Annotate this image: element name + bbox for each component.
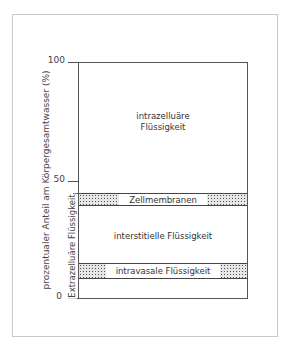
intracellular-label-line2: Flüssigkeit: [79, 122, 247, 133]
tick-100: [68, 62, 78, 63]
intracellular-label-line1: intrazelluäre: [79, 111, 247, 122]
extracellular-bracket-label: Extrazelluäre Flüssigkeit: [67, 193, 77, 298]
cell-membrane-label: Zellmembranen: [79, 195, 247, 205]
cell-membrane-band: Zellmembranen: [79, 193, 247, 206]
tick-label-100: 100: [35, 55, 65, 65]
plot-area: intrazelluäre Flüssigkeit Zellmembranen …: [78, 62, 248, 299]
interstitial-label: interstitielle Flüssigkeit: [79, 231, 247, 242]
tick-label-50: 50: [35, 174, 65, 184]
intravascular-label: intravasale Flüssigkeit: [79, 266, 247, 276]
tick-label-0: 0: [32, 291, 62, 301]
intravascular-band: intravasale Flüssigkeit: [79, 263, 247, 279]
tick-50: [68, 181, 78, 182]
intracellular-label: intrazelluäre Flüssigkeit: [79, 111, 247, 133]
